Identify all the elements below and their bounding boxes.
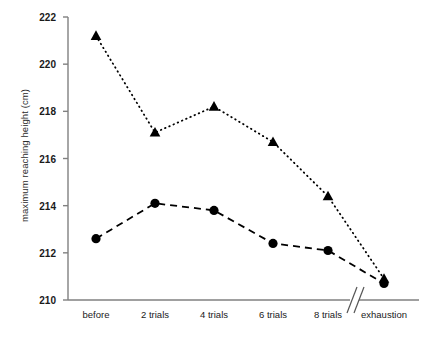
y-tick-label: 216 [22,153,56,164]
x-tick-label: 8 trials [314,309,342,320]
series-line-triangle [96,36,384,279]
y-tick-label: 214 [22,200,56,211]
y-tick-label: 218 [22,106,56,117]
data-point-triangle [209,101,220,111]
axis-lines [68,17,419,300]
x-tick-label: 6 trials [259,309,287,320]
series-lines [96,36,384,284]
x-tick-label: 2 trials [141,309,169,320]
data-point-circle [209,206,218,215]
y-tick-label: 210 [22,295,56,306]
y-tick-label: 212 [22,247,56,258]
data-point-circle [379,279,388,288]
series-markers [91,30,390,288]
data-point-triangle [268,136,279,146]
x-tick-label: exhaustion [361,309,407,320]
x-tick-label: before [83,309,110,320]
data-point-triangle [150,127,161,137]
y-tick-label: 222 [22,12,56,23]
data-point-circle [323,246,332,255]
y-tick-label: 220 [22,59,56,70]
data-point-triangle [91,30,102,40]
data-point-circle [150,199,159,208]
plot-area [0,0,431,341]
x-tick-label: 4 trials [200,309,228,320]
chart-figure: maximum reaching height (cm) 21021221421… [0,0,431,341]
y-tick-marks [63,17,68,300]
data-point-circle [268,239,277,248]
data-point-circle [91,234,100,243]
series-line-circle [96,203,384,283]
